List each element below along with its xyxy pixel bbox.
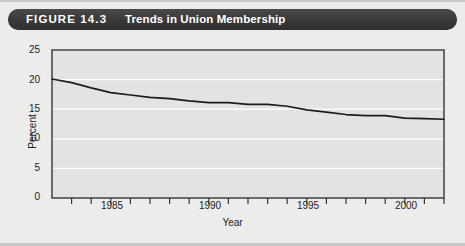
y-tick-label-0: 0 [14,192,40,202]
figure-title-bar: FIGURE 14.3 Trends in Union Membership [8,9,457,30]
y-tick-label-15: 15 [14,104,40,114]
y-tick-label-25: 25 [14,45,40,55]
x-axis-title: Year [0,217,465,228]
figure-top-rule [0,0,465,2]
x-tick-label-2000: 2000 [383,200,429,211]
x-tick-label-1995: 1995 [285,200,331,211]
plot-area: Percent Year 25 20 15 10 5 0 1985 1990 1… [0,34,465,246]
x-tick-label-1985: 1985 [89,200,135,211]
y-tick-label-10: 10 [14,133,40,143]
chart-svg [0,34,465,246]
x-tick-label-1990: 1990 [187,200,233,211]
figure-container: FIGURE 14.3 Trends in Union Membership P… [0,0,465,246]
figure-title-label: Trends in Union Membership [125,13,285,25]
y-tick-label-20: 20 [14,75,40,85]
chart-panel-background [52,50,444,198]
figure-number-label: FIGURE 14.3 [26,13,107,25]
y-tick-label-5: 5 [14,163,40,173]
